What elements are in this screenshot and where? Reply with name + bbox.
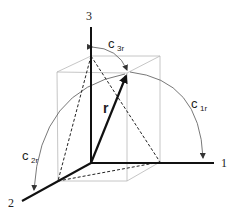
axes <box>22 27 214 201</box>
svg-text:2r: 2r <box>31 156 38 165</box>
axis-2 <box>22 163 91 201</box>
angle-arcs <box>34 47 203 190</box>
svg-text:3r: 3r <box>117 44 124 53</box>
angle-label-c3r: c 3r <box>108 36 124 53</box>
vector-label-r: r <box>103 100 109 116</box>
svg-text:c: c <box>108 36 115 51</box>
svg-text:c: c <box>191 96 198 111</box>
arc-c2r <box>34 74 125 190</box>
arc-c1r <box>130 72 203 158</box>
axis-label-1: 1 <box>221 156 227 170</box>
axis-label-2: 2 <box>8 196 14 210</box>
angle-label-c1r: c 1r <box>191 96 207 113</box>
vector-r <box>91 76 126 163</box>
svg-text:c: c <box>22 148 29 163</box>
axis-label-3: 3 <box>86 9 92 23</box>
direction-cosines-diagram: 3 1 2 r c 3r c 1r c 2r <box>0 0 234 213</box>
angle-label-c2r: c 2r <box>22 148 38 165</box>
svg-text:1r: 1r <box>200 104 207 113</box>
